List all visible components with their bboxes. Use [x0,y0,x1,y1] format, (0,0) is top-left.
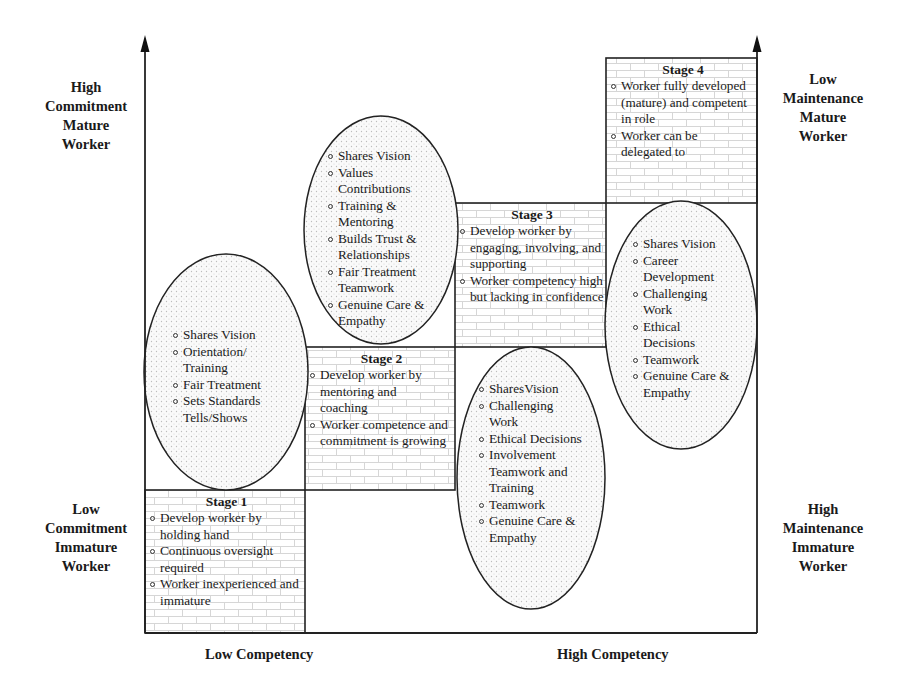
label-high-maintenance: High Maintenance Immature Worker [763,500,883,576]
y-axis-left-arrow-icon [141,35,150,52]
ellipse-1-item: Orientation/ Training [172,344,263,377]
stage-1-item: Develop worker by holding hand [149,510,304,543]
label-low-commitment: Low Commitment Immature Worker [36,500,136,576]
ellipse-2-item: Training & Mentoring [327,198,418,231]
stage-2-item: Worker competence and commitment is grow… [309,417,454,450]
stage-3-item: Worker competency high but lacking in co… [459,273,605,306]
stage-2-box: Stage 2 Develop worker by mentoring and … [305,347,457,490]
stage-1-item: Worker inexperienced and immature [149,576,304,609]
label-low-maintenance: Low Maintenance Mature Worker [763,70,883,146]
ellipse-2-text: Shares Vision Values Contributions Train… [327,148,442,330]
ellipse-2-item: Shares Vision [327,148,442,165]
ellipse-3-item: Genuine Care & Empathy [478,513,584,546]
y-axis-right-arrow-icon [753,35,762,52]
ellipse-1-item: Fair Treatment [172,377,292,394]
stage-1-item: Continuous oversight required [149,543,304,576]
ellipse-1-text: Shares Vision Orientation/ Training Fair… [172,327,292,426]
stage-4-item: Worker can be delegated to [610,128,731,161]
stage-3-box: Stage 3 Develop worker by engaging, invo… [455,203,608,347]
ellipse-4-item: Teamwork [632,352,747,369]
ellipse-4-text: Shares Vision Career Development Challen… [632,236,747,401]
ellipse-3-item: Ethical Decisions [478,431,614,448]
ellipse-2-item: Genuine Care & Empathy [327,297,433,330]
x-axis-label-high-competency: High Competency [557,646,669,663]
stage-1-box: Stage 1 Develop worker by holding hand C… [145,490,307,633]
ellipse-3-item: Teamwork [478,497,598,514]
ellipse-2-item: Builds Trust & Relationships [327,231,438,264]
ellipse-1-item: Sets Standards Tells/Shows [172,393,288,426]
stage-4-title: Stage 4 [610,61,756,78]
stage-3-title: Stage 3 [459,206,605,223]
ellipse-4-item: Challenging Work [632,286,728,319]
ellipse-3-text: SharesVision Challenging Work Ethical De… [478,381,598,546]
x-axis-label-low-competency: Low Competency [205,646,313,663]
ellipse-4-item: Ethical Decisions [632,319,718,352]
stage-4-box: Stage 4 Worker fully developed (mature) … [606,58,759,203]
ellipse-1-item: Shares Vision [172,327,292,344]
ellipse-4-item: Career Development [632,253,738,286]
ellipse-3-item: Challenging Work [478,398,569,431]
stage-3-item: Develop worker by engaging, involving, a… [459,223,605,273]
ellipse-2-item: Fair Treatment Teamwork [327,264,443,297]
ellipse-4-item: Genuine Care & Empathy [632,368,738,401]
ellipse-2-item: Values Contributions [327,165,433,198]
label-high-commitment: High Commitment Mature Worker [36,78,136,154]
stage-4-item: Worker fully developed (mature) and comp… [610,78,756,128]
ellipse-4-item: Shares Vision [632,236,747,253]
ellipse-3-item: SharesVision [478,381,598,398]
stage-2-item: Develop worker by mentoring and coaching [309,367,430,417]
stage-1-title: Stage 1 [149,493,304,510]
ellipse-3-item: Involvement Teamwork and Training [478,447,579,497]
stage-2-title: Stage 2 [309,350,454,367]
